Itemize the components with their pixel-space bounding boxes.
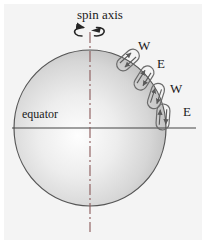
drift-direction-label-east-1: E [157,57,165,70]
drift-direction-label-west-1: W [138,39,150,52]
figure-root: spin axis equator W E W E [0,0,206,244]
equator-label: equator [22,108,58,120]
rotation-direction-arrow [75,27,105,36]
diagram-canvas [0,0,206,244]
drift-direction-label-east-2: E [183,105,191,118]
spin-axis-label: spin axis [60,8,140,21]
drift-direction-label-west-2: W [170,82,182,95]
